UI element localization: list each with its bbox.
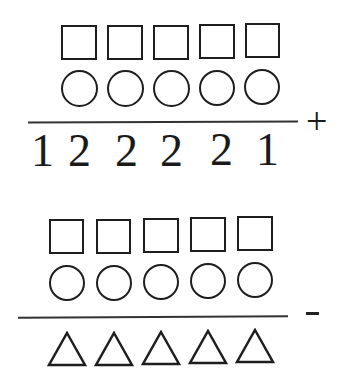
circle-icon: [199, 70, 235, 106]
result-digit: 1: [31, 128, 54, 174]
circle-icon: [190, 263, 226, 299]
circle-icon: [49, 265, 85, 301]
circle-icon: [143, 264, 179, 300]
square-icon: [245, 23, 280, 58]
result-digit: 1: [256, 127, 279, 173]
square-icon: [49, 219, 84, 254]
circle-icon: [107, 70, 144, 107]
square-icon: [143, 218, 179, 253]
circle-icon: [237, 262, 273, 298]
triangle-icon: [188, 329, 228, 365]
circle-icon: [244, 69, 280, 105]
square-icon: [107, 25, 143, 60]
square-icon: [61, 25, 97, 60]
result-digit: 2: [68, 128, 91, 174]
plus-operator: +: [306, 104, 327, 138]
square-icon: [153, 25, 189, 60]
square-icon: [190, 217, 226, 252]
difference-line: [18, 315, 288, 318]
circle-icon: [153, 70, 190, 107]
triangle-icon: [94, 331, 134, 367]
square-icon: [199, 24, 235, 59]
square-icon: [96, 219, 131, 254]
result-digit: 2: [160, 128, 183, 174]
triangle-icon: [235, 328, 275, 364]
square-icon: [237, 216, 273, 251]
triangle-icon: [47, 331, 87, 367]
circle-icon: [61, 70, 98, 107]
result-digit: 2: [210, 127, 233, 173]
triangle-icon: [141, 330, 181, 366]
result-digit: 2: [115, 128, 138, 174]
circle-icon: [96, 265, 132, 301]
minus-operator: [306, 312, 319, 315]
